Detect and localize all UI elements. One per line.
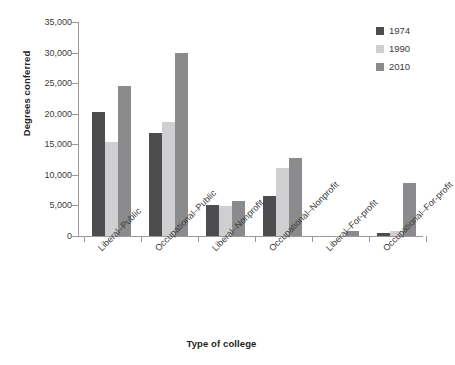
x-axis-tick [255,236,256,242]
y-axis-tick [72,144,78,145]
bar-group [206,22,245,236]
x-axis-tick [84,236,85,242]
x-axis-tick [141,236,142,242]
y-axis-tick [72,53,78,54]
x-axis-tick [426,236,427,242]
x-axis-tick [369,236,370,242]
bar[interactable] [92,112,105,236]
bar-group [263,22,302,236]
bar-group [320,22,359,236]
x-axis-tick [312,236,313,242]
y-axis-tick-labels: 05,00010,00015,00020,00025,00030,00035,0… [28,22,72,236]
bar-group [92,22,131,236]
x-axis-title: Type of college [0,338,443,349]
legend-swatch-icon [376,45,384,53]
bar[interactable] [105,142,118,236]
legend-label: 2010 [389,62,410,72]
y-axis-tick [72,205,78,206]
bar[interactable] [149,133,162,236]
x-axis-line [78,236,423,237]
y-axis-tick [72,114,78,115]
legend-label: 1974 [389,26,410,36]
chart-legend: 197419902010 [376,22,438,76]
y-axis-tick [72,175,78,176]
legend-item[interactable]: 2010 [376,58,438,76]
legend-label: 1990 [389,44,410,54]
bar[interactable] [377,233,390,236]
legend-item[interactable]: 1990 [376,40,438,58]
legend-swatch-icon [376,27,384,35]
y-axis-tick [72,83,78,84]
bar-group [149,22,188,236]
x-axis-tick [198,236,199,242]
y-axis-line [78,22,79,237]
plot-area [78,22,368,236]
bar[interactable] [206,205,219,236]
y-axis-tick-label: 15,000 [44,139,72,149]
y-axis-tick-label: 10,000 [44,170,72,180]
bar[interactable] [263,196,276,236]
legend-swatch-icon [376,63,384,71]
y-axis-tick-label: 20,000 [44,109,72,119]
y-axis-tick-label: 35,000 [44,17,72,27]
y-axis-tick-label: 5,000 [49,200,72,210]
legend-item[interactable]: 1974 [376,22,438,40]
x-axis-category-labels: Liberal–PublicOccupational–PublicLiberal… [78,244,423,339]
y-axis-tick-label: 30,000 [44,48,72,58]
bar[interactable] [175,53,188,236]
y-axis-tick [72,236,78,237]
y-axis-tick [72,22,78,23]
bar[interactable] [162,122,175,236]
y-axis-tick-label: 25,000 [44,78,72,88]
